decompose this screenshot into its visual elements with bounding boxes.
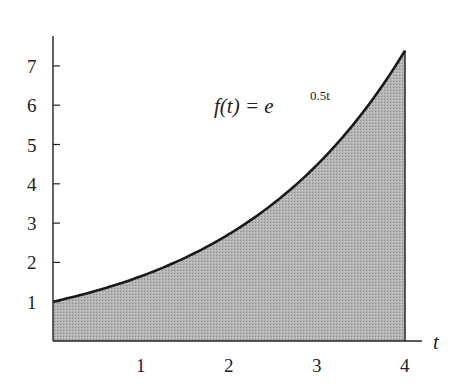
chart: 1234567 1234 t f(t) = e 0.5t: [0, 0, 470, 391]
svg-text:6: 6: [27, 95, 37, 116]
y-ticks: 1234567: [27, 56, 60, 313]
function-annotation: f(t) = e 0.5t: [214, 88, 330, 118]
svg-text:3: 3: [312, 355, 322, 376]
x-axis-label: t: [433, 330, 440, 354]
svg-text:3: 3: [27, 213, 37, 234]
svg-text:7: 7: [27, 56, 37, 77]
svg-text:4: 4: [27, 174, 37, 195]
svg-text:5: 5: [27, 135, 37, 156]
svg-text:4: 4: [400, 355, 410, 376]
svg-text:2: 2: [224, 355, 234, 376]
svg-text:1: 1: [136, 355, 146, 376]
svg-text:0.5t: 0.5t: [310, 88, 330, 103]
svg-text:f(t) = e: f(t) = e: [214, 94, 274, 118]
svg-text:2: 2: [27, 252, 37, 273]
svg-text:1: 1: [27, 292, 37, 313]
x-ticks: 1234: [136, 355, 410, 376]
